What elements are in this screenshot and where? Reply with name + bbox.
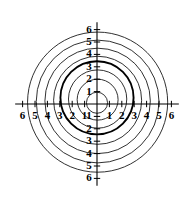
plot-canvas: 654321123456654321123456	[0, 0, 192, 199]
x-tick-label: 2	[119, 109, 125, 121]
x-tick-label: 1	[107, 109, 113, 121]
y-tick-label: 5	[86, 35, 92, 47]
y-tick-label: 5	[86, 159, 92, 171]
y-tick-label: 3	[86, 60, 92, 72]
x-tick-label: 4	[144, 109, 150, 121]
y-tick-label: 1	[86, 85, 92, 97]
y-tick-label: 1	[86, 109, 92, 121]
x-tick-label: 2	[69, 109, 75, 121]
axes	[15, 22, 179, 186]
y-tick-label: 4	[86, 147, 92, 159]
polar-circles-figure: 654321123456654321123456	[0, 0, 192, 199]
y-tick-label: 3	[86, 134, 92, 146]
y-tick-label: 2	[86, 72, 92, 84]
y-tick-label: 4	[86, 47, 92, 59]
x-tick-label: 6	[169, 109, 175, 121]
y-tick-label: 2	[86, 122, 92, 134]
x-tick-label: 6	[20, 109, 26, 121]
x-tick-label: 4	[45, 109, 51, 121]
x-tick-label: 5	[156, 109, 162, 121]
x-tick-label: 3	[131, 109, 137, 121]
x-tick-label: 3	[57, 109, 63, 121]
y-tick-label: 6	[86, 23, 92, 35]
y-tick-label: 6	[86, 171, 92, 183]
x-tick-label: 5	[32, 109, 38, 121]
